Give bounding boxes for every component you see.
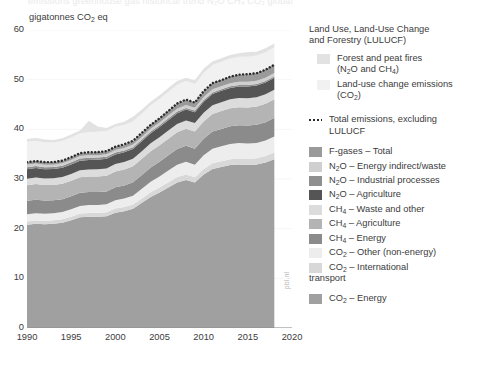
stacked-area-chart [27, 30, 292, 328]
legend-item-ch4-energy[interactable]: CH4 – Energy [309, 233, 477, 244]
y-axis-tick-60: 60 [0, 25, 24, 34]
legend-item-ch4-waste-and-other[interactable]: CH4 – Waste and other [309, 204, 477, 215]
y-axis-tick-50: 50 [0, 75, 24, 84]
legend-label-co2-energy: CO2 – Energy [329, 293, 477, 304]
y-axis-tick-20: 20 [0, 224, 24, 233]
y-axis-tick-0: 0 [0, 323, 24, 332]
y-axis: 6050403020100 [0, 30, 24, 328]
figure-root: emissions greenhouse gas historical tren… [0, 0, 479, 388]
legend-swatch-f-gases-total [309, 147, 322, 157]
x-axis-tick-1990: 1990 [17, 332, 38, 342]
legend-item-land-use-change-emissions[interactable]: Land-use change emissions(CO2) [309, 79, 477, 102]
x-axis-tick-2005: 2005 [149, 332, 170, 342]
legend-dotted-line-icon [309, 115, 322, 125]
legend-swatch-n2o-agriculture [309, 190, 322, 200]
legend-item-f-gases-total[interactable]: F-gases – Total [309, 146, 477, 157]
legend-swatch-land-use-change-emissions [317, 80, 330, 90]
legend-label-n2o-agriculture: N2O – Agriculture [329, 189, 477, 200]
legend-swatch-ch4-energy [309, 234, 322, 244]
legend-swatch-forest-and-peat-fires [317, 54, 330, 64]
legend-swatch-n2o-energy-indirect-waste [309, 162, 322, 172]
legend-label-n2o-energy-indirect-waste: N2O – Energy indirect/waste [329, 161, 477, 172]
y-axis-tick-30: 30 [0, 174, 24, 183]
legend-item-n2o-industrial-processes[interactable]: N2O – Industrial processes [309, 175, 477, 186]
chart-legend: Land Use, Land-Use Change and Forestry (… [309, 24, 477, 374]
legend-swatch-co2-other-non-energy [309, 248, 322, 258]
legend-label-f-gases-total: F-gases – Total [329, 146, 477, 157]
x-axis-tick-2010: 2010 [193, 332, 214, 342]
legend-item-co2-international-transport[interactable]: CO2 – Internationaltransport [309, 262, 477, 285]
unit-caption-sub: 2 [91, 16, 95, 23]
legend-label-land-use-change-emissions: Land-use change emissions(CO2) [337, 79, 477, 102]
legend-label-forest-and-peat-fires: Forest and peat fires(N2O and CH4) [337, 53, 477, 76]
y-axis-unit-caption: gigatonnes CO2 eq [29, 12, 108, 22]
unit-caption-post: eq [95, 12, 108, 22]
legend-header-line2: and Forestry (LULUCF) [309, 35, 467, 46]
legend-header-line1: Land Use, Land-Use Change [309, 24, 467, 35]
legend-item-co2-energy[interactable]: CO2 – Energy [309, 293, 477, 304]
legend-label-n2o-industrial-processes: N2O – Industrial processes [329, 175, 477, 186]
y-axis-tick-40: 40 [0, 124, 24, 133]
x-axis: 1990199520002005201020152020 [0, 332, 310, 348]
x-axis-tick-2000: 2000 [105, 332, 126, 342]
legend-item-n2o-agriculture[interactable]: N2O – Agriculture [309, 189, 477, 200]
legend-swatch-co2-international-transport [309, 263, 322, 273]
y-axis-tick-10: 10 [0, 273, 24, 282]
legend-label-co2-other-non-energy: CO2 – Other (non-energy) [329, 247, 477, 258]
x-axis-tick-2015: 2015 [237, 332, 258, 342]
unit-caption-pre: gigatonnes CO [29, 12, 91, 22]
legend-label-ch4-energy: CH4 – Energy [329, 233, 477, 244]
legend-item-co2-other-non-energy[interactable]: CO2 – Other (non-energy) [309, 247, 477, 258]
x-axis-tick-2020: 2020 [282, 332, 303, 342]
legend-swatch-n2o-industrial-processes [309, 176, 322, 186]
legend-item-forest-and-peat-fires[interactable]: Forest and peat fires(N2O and CH4) [309, 53, 477, 76]
legend-item-n2o-energy-indirect-waste[interactable]: N2O – Energy indirect/waste [309, 161, 477, 172]
clipped-header-text: emissions greenhouse gas historical tren… [28, 0, 468, 6]
legend-header: Land Use, Land-Use Change and Forestry (… [309, 24, 467, 47]
plot-area [27, 30, 292, 328]
legend-label-ch4-waste-and-other: CH4 – Waste and other [329, 204, 477, 215]
x-axis-tick-1995: 1995 [61, 332, 82, 342]
legend-rows: Forest and peat fires(N2O and CH4)Land-u… [309, 53, 477, 305]
legend-label-co2-international-transport: CO2 – Internationaltransport [329, 262, 477, 285]
legend-label-ch4-agriculture: CH4 – Agriculture [329, 218, 477, 229]
legend-item-total-emissions-excluding-lulucf[interactable]: Total emissions, excludingLULUCF [309, 114, 477, 137]
legend-swatch-ch4-agriculture [309, 219, 322, 229]
source-credit: pbl.nl [283, 272, 290, 289]
legend-swatch-ch4-waste-and-other [309, 205, 322, 215]
legend-item-ch4-agriculture[interactable]: CH4 – Agriculture [309, 218, 477, 229]
legend-swatch-co2-energy [309, 294, 322, 304]
legend-label-total-emissions-excluding-lulucf: Total emissions, excludingLULUCF [329, 114, 477, 137]
